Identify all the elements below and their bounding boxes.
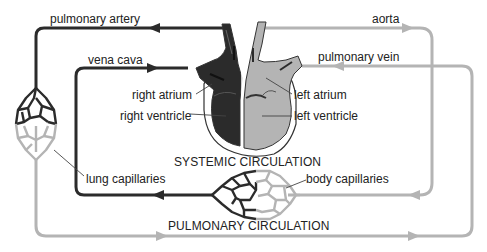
arrow-left-icon bbox=[152, 190, 164, 200]
label-lung-capillaries: lung capillaries bbox=[86, 172, 165, 186]
arrow-right-icon bbox=[147, 63, 159, 73]
label-vena-cava: vena cava bbox=[88, 53, 143, 67]
arrow-left-icon bbox=[408, 190, 420, 200]
label-pulmonary-vein: pulmonary vein bbox=[318, 50, 399, 64]
label-body-capillaries: body capillaries bbox=[306, 172, 389, 186]
arrow-right-icon bbox=[408, 231, 420, 241]
arrow-right-icon bbox=[402, 23, 414, 33]
circulation-diagram: pulmonary artery vena cava aorta pulmona… bbox=[0, 0, 487, 252]
label-left-atrium: left atrium bbox=[294, 88, 347, 102]
arrow-right-icon bbox=[156, 231, 168, 241]
body-capillaries-network bbox=[212, 171, 300, 219]
lung-capillaries-network bbox=[16, 88, 56, 160]
label-left-ventricle: left ventricle bbox=[294, 109, 358, 123]
heart bbox=[196, 22, 302, 156]
label-pulmonary-circulation: PULMONARY CIRCULATION bbox=[168, 219, 329, 233]
label-right-atrium: right atrium bbox=[132, 88, 192, 102]
label-systemic-circulation: SYSTEMIC CIRCULATION bbox=[174, 155, 321, 169]
leader-lung-capillaries bbox=[54, 150, 84, 176]
label-pulmonary-artery: pulmonary artery bbox=[50, 12, 140, 26]
label-aorta: aorta bbox=[372, 12, 399, 26]
label-right-ventricle: right ventricle bbox=[120, 109, 191, 123]
arrow-left-icon bbox=[148, 23, 160, 33]
diagram-graphics bbox=[0, 0, 487, 252]
